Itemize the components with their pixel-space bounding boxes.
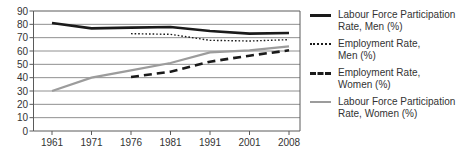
svg-text:20: 20 <box>17 99 29 110</box>
svg-text:40: 40 <box>17 72 29 83</box>
legend-label-lfpr-men: Labour Force Participation Rate, Men (%) <box>338 9 465 33</box>
svg-text:1991: 1991 <box>199 137 222 148</box>
svg-text:10: 10 <box>17 112 29 123</box>
legend-item-lfpr-men: Labour Force Participation Rate, Men (%) <box>310 9 465 33</box>
svg-text:1961: 1961 <box>41 137 64 148</box>
legend-label-er-women: Employment Rate, Women (%) <box>338 67 434 91</box>
svg-text:2001: 2001 <box>238 137 261 148</box>
dashed-line-icon <box>310 72 331 75</box>
chart-legend: Labour Force Participation Rate, Men (%)… <box>310 9 465 120</box>
svg-text:50: 50 <box>17 59 29 70</box>
svg-text:1976: 1976 <box>120 137 143 148</box>
chart-plot-svg: 0102030405060708090196119711976198119912… <box>0 0 310 160</box>
svg-text:0: 0 <box>22 126 28 137</box>
svg-text:60: 60 <box>17 46 29 57</box>
svg-text:90: 90 <box>17 6 29 17</box>
legend-label-er-men: Employment Rate, Men (%) <box>338 38 434 62</box>
legend-item-lfpr-women: Labour Force Participation Rate, Women (… <box>310 96 465 120</box>
dotted-line-icon <box>310 43 331 45</box>
legend-label-lfpr-women: Labour Force Participation Rate, Women (… <box>338 96 465 120</box>
svg-text:70: 70 <box>17 32 29 43</box>
svg-text:80: 80 <box>17 19 29 30</box>
svg-text:2008: 2008 <box>278 137 301 148</box>
legend-item-er-men: Employment Rate, Men (%) <box>310 38 465 62</box>
legend-item-er-women: Employment Rate, Women (%) <box>310 67 465 91</box>
svg-text:1971: 1971 <box>80 137 103 148</box>
svg-text:30: 30 <box>17 86 29 97</box>
svg-text:1981: 1981 <box>159 137 182 148</box>
solid-black-line-icon <box>310 14 331 17</box>
solid-gray-line-icon <box>310 101 331 103</box>
chart: 0102030405060708090196119711976198119912… <box>0 0 465 160</box>
